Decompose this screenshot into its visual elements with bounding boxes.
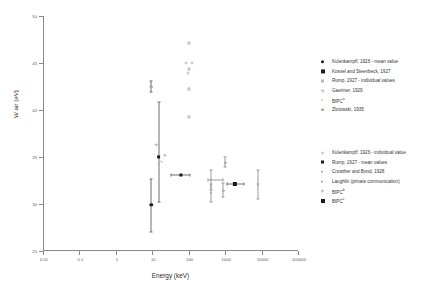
error-bar-cap (222, 197, 225, 198)
error-bar-cap (222, 183, 225, 184)
legend-marker-glyph (321, 60, 324, 63)
legend-marker-icon (318, 196, 332, 206)
x-axis-tick: 100000 (298, 251, 299, 255)
legend-entry[interactable]: Kulenkampff, 1926 - mean value (318, 57, 398, 67)
data-point (187, 115, 190, 118)
error-bar-cap (207, 178, 208, 181)
x-axis-tick-label: 0.01 (40, 256, 48, 263)
legend-marker-icon (318, 158, 332, 168)
legend-entry[interactable]: Kossel and Steenbeck, 1927 (318, 67, 398, 77)
data-point (233, 182, 237, 186)
x-axis-tick-label: 1000 (221, 256, 230, 263)
data-points-layer (43, 16, 298, 251)
error-bar-cap (226, 183, 227, 186)
legend-group-secondary: Kulenkampff, 1926 - individual valueRump… (318, 148, 406, 206)
y-axis-title: W air (eV) (12, 90, 19, 118)
legend-entry[interactable]: Laughlin (private communication) (318, 177, 406, 187)
legend-group-primary: Kulenkampff, 1926 - mean valueKossel and… (318, 57, 398, 115)
error-bar-cap (190, 173, 191, 176)
legend-entry[interactable]: BIPCc (318, 196, 406, 206)
legend-entry-label: Kossel and Steenbeck, 1927 (332, 67, 391, 77)
error-bar-vertical (158, 102, 159, 202)
legend-marker-glyph (321, 199, 325, 203)
legend-superscript: b (343, 188, 345, 192)
error-bar-cap (209, 170, 212, 171)
x-axis-tick: 0.1 (79, 251, 80, 255)
legend-entry[interactable]: Rump, 1927 - mean values (318, 158, 406, 168)
data-point (157, 162, 160, 165)
error-bar-cap (257, 199, 260, 200)
legend-entry[interactable]: Crowther and Bond, 1928 (318, 167, 406, 177)
legend-marker-icon (318, 95, 332, 105)
error-bar-cap (150, 178, 153, 179)
data-point (186, 72, 189, 75)
error-bar-cap (157, 202, 160, 203)
legend-entry[interactable]: Zlotowski, 1935 (318, 105, 398, 115)
data-point (185, 62, 188, 65)
x-axis-tick-label: 10000 (257, 256, 269, 263)
error-bar-cap (223, 178, 224, 181)
legend-entry-label: BIPCc (332, 195, 344, 206)
error-bar-cap (224, 157, 227, 158)
data-point (150, 85, 153, 88)
x-axis-tick: 100 (189, 251, 190, 255)
error-bar-cap (243, 183, 244, 186)
error-bar-cap (209, 184, 212, 185)
error-bar-cap (209, 202, 212, 203)
legend-superscript: a (343, 97, 345, 101)
error-bar-cap (224, 167, 227, 168)
data-point (160, 161, 162, 163)
y-axis-tick-label: 35 (32, 154, 37, 162)
x-axis-tick: 1000 (225, 251, 226, 255)
legend-entry-label: Zlotowski, 1935 (332, 105, 364, 115)
y-axis-tick-label: 25 (32, 248, 37, 256)
legend-marker-glyph (321, 151, 324, 154)
x-axis-tick-label: 1 (116, 256, 118, 263)
legend-entry-label: Rump, 1927 - mean values (332, 158, 387, 168)
legend-marker-icon (318, 105, 332, 115)
legend-marker-glyph (321, 108, 324, 111)
plot-area: 253035404550 0.010.111010010001000010000… (43, 16, 298, 251)
x-axis-tick: 10000 (262, 251, 263, 255)
legend-marker-icon (318, 177, 332, 187)
legend-entry[interactable]: Rump, 1927 - individual values (318, 76, 398, 86)
x-axis-tick-label: 100 (186, 256, 193, 263)
data-point (179, 173, 182, 176)
data-point (187, 67, 190, 70)
legend-entry-label: Kulenkampff, 1926 - individual value (332, 148, 406, 158)
error-bar-cap (170, 173, 171, 176)
data-point (163, 154, 166, 157)
legend-marker-icon (318, 148, 332, 158)
legend-marker-glyph (321, 99, 323, 101)
y-axis-tick-label: 30 (32, 201, 37, 209)
legend-entry[interactable]: BIPCb (318, 186, 406, 196)
legend-marker-icon (318, 186, 332, 196)
error-bar-cap (150, 232, 153, 233)
legend-entry-label: Kulenkampff, 1926 - mean value (332, 57, 398, 67)
legend-marker-glyph (321, 190, 324, 193)
data-point (187, 42, 190, 45)
x-axis-title: Energy (keV) (43, 272, 298, 279)
legend-marker-glyph (321, 79, 324, 82)
x-axis-tick-label: 0.1 (78, 256, 84, 263)
legend-superscript: c (343, 197, 345, 201)
data-point (155, 143, 158, 146)
y-axis-tick-label: 45 (32, 60, 37, 68)
x-axis-tick: 0.01 (43, 251, 44, 255)
legend-marker-icon (318, 57, 332, 67)
data-point (150, 203, 153, 206)
legend-marker-icon (318, 76, 332, 86)
error-bar-cap (150, 92, 153, 93)
legend-marker-glyph (321, 180, 323, 182)
legend-marker-glyph (321, 70, 325, 73)
legend-marker-glyph (321, 171, 323, 173)
x-axis-tick-label: 10 (151, 256, 156, 263)
legend-marker-glyph (321, 89, 324, 92)
data-point (191, 62, 194, 65)
x-axis-tick-label: 100000 (292, 256, 306, 263)
data-point (187, 88, 190, 91)
legend-entry[interactable]: Gaertner, 1929 (318, 86, 398, 96)
legend-entry[interactable]: Kulenkampff, 1926 - individual value (318, 148, 406, 158)
x-axis-tick: 10 (152, 251, 153, 255)
legend-entry[interactable]: BIPCa (318, 95, 398, 105)
